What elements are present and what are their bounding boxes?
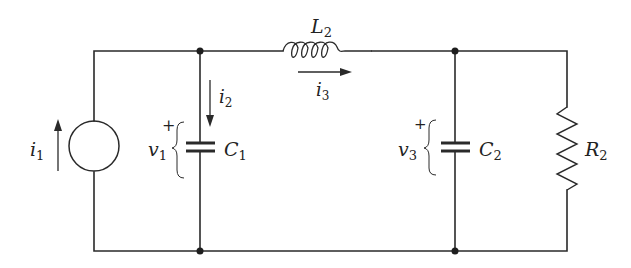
node-bottom-c2 <box>452 248 459 255</box>
i3-label: i3 <box>316 79 329 103</box>
c2-label: C2 <box>479 138 502 163</box>
v3-label: v3 <box>398 138 417 163</box>
c1-label: C1 <box>224 138 247 163</box>
wire-bottom <box>94 172 567 251</box>
current-source-icon <box>69 121 119 171</box>
node-bottom-c1 <box>197 248 204 255</box>
capacitor-c2-icon <box>441 143 470 151</box>
r2-label: R2 <box>584 138 608 163</box>
i1-label: i1 <box>30 138 44 163</box>
resistor-r2-icon <box>557 107 577 190</box>
l2-label: L2 <box>310 15 332 40</box>
node-top-c2 <box>452 48 459 55</box>
i1-arrow-icon <box>54 119 62 171</box>
i3-arrow-icon <box>298 68 352 76</box>
v3-plus: + <box>414 115 427 133</box>
inductor-l2-icon <box>283 42 372 57</box>
wire-top-left <box>94 51 283 121</box>
v1-label: v1 <box>148 138 167 163</box>
wire-top-right <box>372 51 567 107</box>
circuit-diagram: i1 C1 i2 + v1 L2 i3 C2 + v3 R2 <box>0 0 631 268</box>
capacitor-c1-icon <box>186 143 215 151</box>
i2-label: i2 <box>219 86 232 110</box>
v1-plus: + <box>162 116 175 135</box>
i2-arrow-icon <box>206 80 214 127</box>
node-top-c1 <box>197 48 204 55</box>
